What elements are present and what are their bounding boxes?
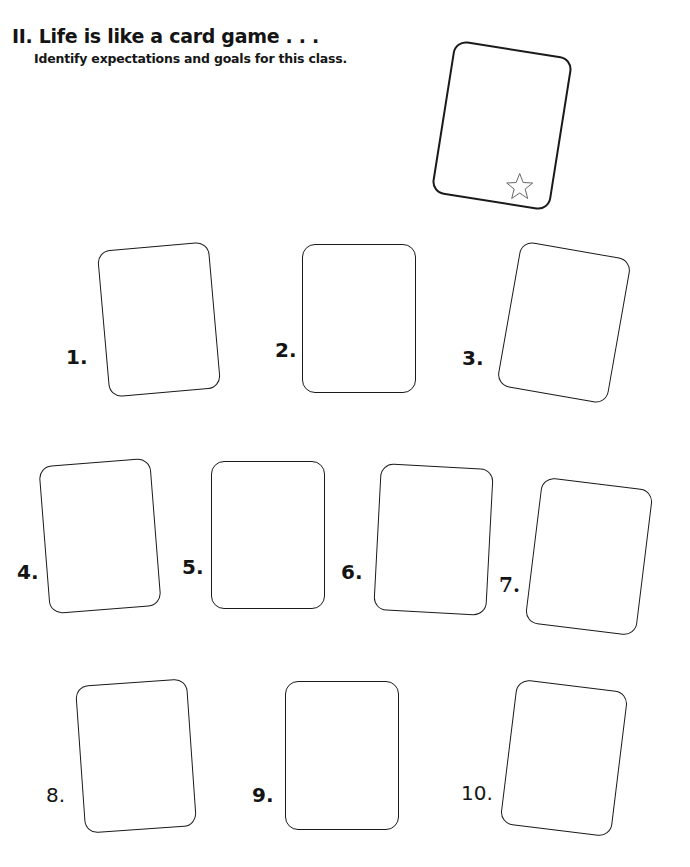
worksheet-instructions: Identify expectations and goals for this… <box>34 51 347 66</box>
answer-card-9[interactable] <box>285 681 399 830</box>
card-label-5: 5. <box>182 557 204 577</box>
card-label-9: 9. <box>252 785 274 805</box>
card-label-2: 2. <box>275 340 297 360</box>
card-label-10: 10. <box>461 783 493 803</box>
answer-card-8[interactable] <box>75 678 197 833</box>
worksheet-title: II. Life is like a card game . . . <box>12 25 319 47</box>
answer-card-3[interactable] <box>496 240 632 404</box>
answer-card-6[interactable] <box>373 463 494 616</box>
answer-card-2[interactable] <box>302 244 416 393</box>
card-label-1: 1. <box>66 347 88 367</box>
card-label-6: 6. <box>341 562 363 582</box>
card-label-7: 7. <box>499 575 520 595</box>
answer-card-5[interactable] <box>211 461 325 609</box>
card-label-4: 4. <box>17 562 39 582</box>
answer-card-4[interactable] <box>38 458 161 614</box>
card-label-3: 3. <box>462 348 484 368</box>
answer-card-10[interactable] <box>500 679 629 838</box>
example-card <box>431 40 574 212</box>
answer-card-1[interactable] <box>97 241 221 397</box>
star-icon <box>503 169 537 203</box>
answer-card-7[interactable] <box>524 477 653 637</box>
card-label-8: 8. <box>46 785 65 805</box>
